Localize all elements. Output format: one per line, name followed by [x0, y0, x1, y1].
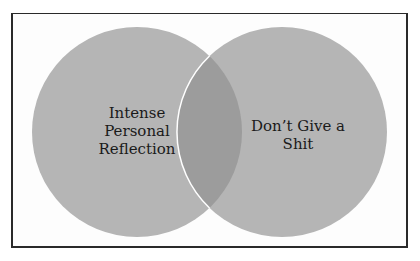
set-label-left: Intense Personal Reflection	[72, 104, 202, 158]
label-line: Reflection	[72, 140, 202, 158]
label-line: Intense	[72, 104, 202, 122]
set-label-right: Don’t Give a Shit	[233, 117, 363, 153]
label-line: Personal	[72, 122, 202, 140]
label-line: Don’t Give a	[233, 117, 363, 135]
label-line: Shit	[233, 135, 363, 153]
